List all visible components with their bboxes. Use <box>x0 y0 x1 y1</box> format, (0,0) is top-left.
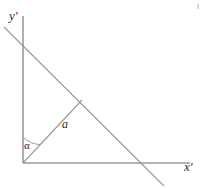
geometry-diagram: y' x' a α <box>0 0 206 189</box>
x-axis-label: x' <box>184 160 193 173</box>
figure-canvas <box>0 0 206 189</box>
vector-a-label: a <box>62 118 68 130</box>
angle-alpha-label: α <box>24 140 30 151</box>
y-axis-label: y' <box>9 9 18 22</box>
diagonal-line <box>4 27 164 186</box>
corner-artifact <box>197 4 199 9</box>
vector-a-line <box>23 100 82 163</box>
